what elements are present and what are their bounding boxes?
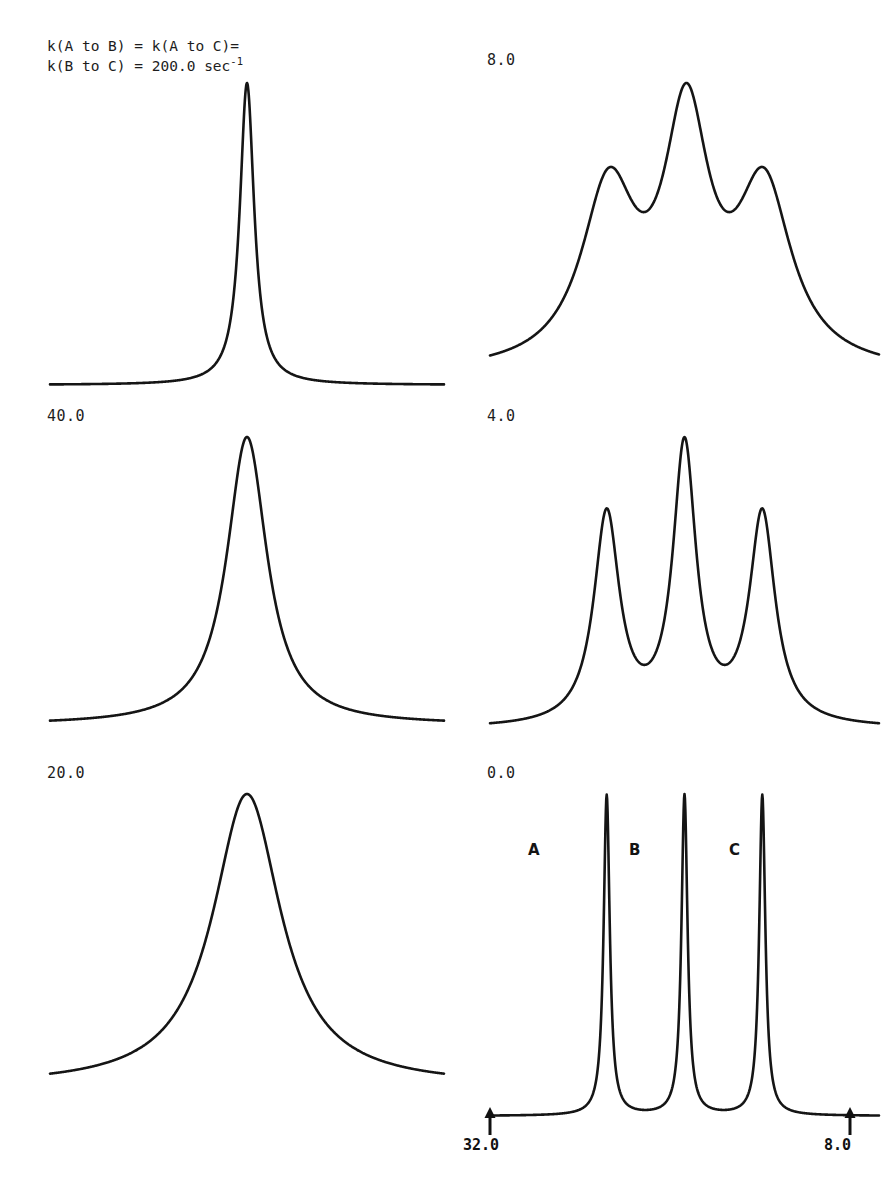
- spectrum-panel-20: [47, 789, 447, 1089]
- spectrum-panel-200: [47, 78, 447, 388]
- panel-label-40: 40.0: [47, 406, 85, 426]
- axis-arrow-left-icon: [479, 1106, 501, 1136]
- spectrum-trace-200: [47, 78, 447, 388]
- panel-label-0: 0.0: [487, 763, 516, 783]
- caption-exponent: -1: [230, 55, 243, 67]
- caption-line-1: k(A to B) = k(A to C)=: [47, 38, 239, 54]
- spectrum-panel-40: [47, 432, 447, 728]
- spectrum-panel-8: [487, 78, 882, 378]
- rate-caption: k(A to B) = k(A to C)= k(B to C) = 200.0…: [47, 36, 243, 76]
- peak-label-a: A: [528, 841, 540, 859]
- caption-line-2: k(B to C) = 200.0 sec-1: [47, 58, 243, 74]
- spectrum-panel-4: [487, 432, 882, 732]
- panel-label-4: 4.0: [487, 406, 516, 426]
- spectrum-trace-4: [487, 432, 882, 732]
- spectrum-trace-40: [47, 432, 447, 728]
- axis-arrow-right-icon: [839, 1106, 861, 1136]
- panel-label-20: 20.0: [47, 763, 85, 783]
- axis-label-left: 32.0: [463, 1136, 499, 1154]
- spectrum-trace-8: [487, 78, 882, 378]
- spectrum-panel-0: [487, 789, 882, 1119]
- panel-label-8: 8.0: [487, 50, 516, 70]
- spectrum-trace-0: [487, 789, 882, 1119]
- peak-label-b: B: [629, 841, 640, 859]
- axis-label-right: 8.0: [824, 1136, 851, 1154]
- peak-label-c: C: [729, 841, 740, 859]
- nmr-lineshape-figure: k(A to B) = k(A to C)= k(B to C) = 200.0…: [0, 0, 889, 1195]
- spectrum-trace-20: [47, 789, 447, 1089]
